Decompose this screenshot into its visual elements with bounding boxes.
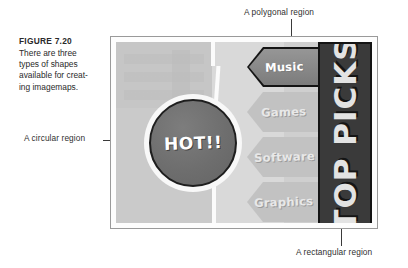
- caption-line: available for creat-: [19, 70, 105, 81]
- polygon-region-label: Music: [264, 59, 303, 74]
- rect-region-label: TOP PICKS: [327, 42, 363, 223]
- figure-number-label: FIGURE 7.20: [19, 36, 105, 48]
- annotation-circular-region: A circular region: [24, 133, 85, 143]
- polygon-region-label: Graphics: [254, 194, 314, 210]
- circle-region-hot[interactable]: HOT!!: [149, 99, 237, 187]
- polygon-region-label: Software: [253, 149, 314, 165]
- imagemap-panel: HOT!! Music Games Software Graphics TOP …: [110, 36, 378, 229]
- figure-caption-text: There are three types of shapes availabl…: [19, 48, 105, 94]
- annotation-rectangular-region: A rectangular region: [296, 247, 372, 257]
- polygon-region-label: Games: [261, 104, 307, 120]
- caption-line: There are three: [19, 48, 105, 59]
- divider-line-top: [211, 42, 215, 66]
- polygon-region-music[interactable]: Music: [249, 49, 319, 85]
- figure-caption: FIGURE 7.20 There are three types of sha…: [19, 36, 105, 93]
- annotation-polygonal-region: A polygonal region: [244, 7, 314, 17]
- caption-line: types of shapes: [19, 59, 105, 70]
- caption-line: ing imagemaps.: [19, 82, 105, 93]
- figure-page: FIGURE 7.20 There are three types of sha…: [0, 0, 408, 268]
- circle-region-label: HOT!!: [164, 132, 223, 154]
- rect-region-top-picks[interactable]: TOP PICKS: [318, 42, 372, 223]
- imagemap-canvas: HOT!! Music Games Software Graphics TOP …: [116, 42, 372, 223]
